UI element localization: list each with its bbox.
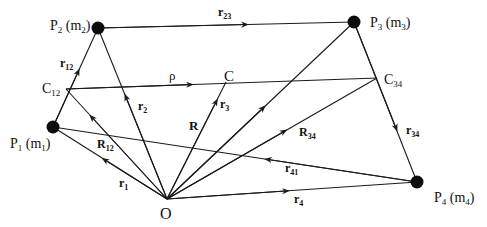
vector-r2 (98, 28, 167, 199)
vector-r3 (167, 22, 354, 199)
label-rho: ρ (169, 68, 176, 83)
vector-R34 (167, 78, 377, 199)
label-r4: r4 (294, 192, 303, 208)
vector-rho (66, 78, 377, 89)
point-P4 (411, 176, 424, 189)
point-P2 (92, 22, 105, 35)
edge-r23 (98, 22, 354, 28)
label-r12: r12 (60, 56, 73, 72)
vector-R12 (66, 89, 167, 199)
label-origin: O (160, 205, 172, 222)
label-P2: P2 (m2) (50, 18, 91, 35)
label-R34: R34 (299, 125, 316, 141)
label-R12: R12 (97, 137, 114, 153)
label-r2: r2 (138, 99, 147, 115)
label-r34: r34 (406, 123, 419, 139)
vector-r4 (167, 182, 417, 199)
label-r1: r1 (119, 176, 128, 192)
label-P3: P3 (m3) (370, 15, 411, 32)
point-P3 (348, 16, 361, 29)
four-body-diagram: P1 (m1) P2 (m2) P3 (m3) P4 (m4) C12 C34 … (0, 0, 487, 227)
edge-r12 (53, 28, 98, 127)
label-R: R (189, 118, 199, 133)
edge-r34 (354, 22, 417, 182)
label-C12: C12 (42, 81, 60, 98)
label-P4: P4 (m4) (434, 190, 475, 207)
label-P1: P1 (m1) (10, 136, 51, 153)
label-C: C (224, 68, 234, 84)
point-P1 (47, 121, 60, 134)
diagram-canvas: P1 (m1) P2 (m2) P3 (m3) P4 (m4) C12 C34 … (0, 0, 487, 227)
label-r3: r3 (220, 97, 229, 113)
label-C34: C34 (384, 72, 403, 89)
label-r23: r23 (218, 5, 231, 21)
